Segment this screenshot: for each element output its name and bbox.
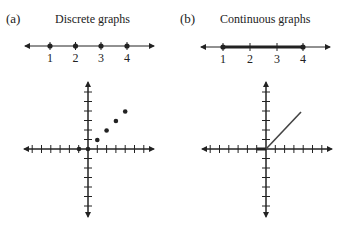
tick-label: 3	[274, 52, 280, 66]
tick-label: 4	[124, 51, 130, 65]
tick-label: 3	[98, 51, 104, 65]
diagram-canvas: 1 2 3 4 1 2 3 4	[0, 0, 339, 229]
tick-label: 1	[220, 52, 226, 66]
tick-label: 1	[47, 51, 53, 65]
continuous-number-line: 1 2 3 4	[201, 43, 330, 66]
tick-label: 4	[300, 52, 306, 66]
discrete-number-line: 1 2 3 4	[25, 42, 154, 65]
tick-label: 2	[73, 51, 79, 65]
tick-label: 2	[247, 52, 253, 66]
continuous-coordinate-plane	[202, 82, 332, 217]
discrete-coordinate-plane	[24, 82, 154, 217]
